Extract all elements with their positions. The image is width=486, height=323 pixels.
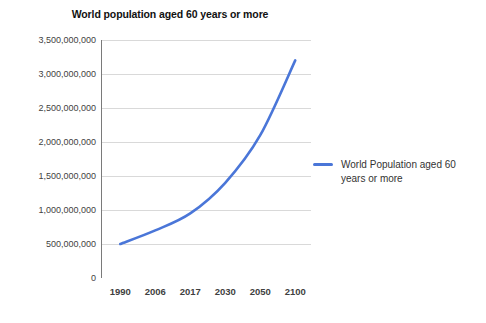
y-axis-tick-label: 1,000,000,000: [12, 205, 96, 215]
x-axis-tick-label: 2050: [250, 286, 271, 297]
legend-entry-label: World Population aged 60 years or more: [341, 158, 473, 186]
y-axis-tick-label: 500,000,000: [12, 239, 96, 249]
x-axis-tick-label: 2100: [285, 286, 306, 297]
y-axis-tick-label: 0: [12, 273, 96, 283]
legend-color-swatch-icon: [313, 163, 333, 166]
y-axis-tick-labels: 0500,000,0001,000,000,0001,500,000,0002,…: [12, 40, 96, 278]
plot-area: [101, 40, 311, 278]
y-axis-tick-label: 1,500,000,000: [12, 171, 96, 181]
data-series-line: [120, 60, 295, 244]
x-axis-tick-label: 2006: [145, 286, 166, 297]
x-axis-tick-label: 1990: [110, 286, 131, 297]
x-axis-tick-label: 2030: [215, 286, 236, 297]
line-chart-svg: [101, 40, 311, 278]
chart-title: World population aged 60 years or more: [0, 8, 340, 20]
y-axis-tick-label: 3,500,000,000: [12, 35, 96, 45]
x-axis-tick-labels: 199020062017203020502100: [101, 286, 311, 302]
chart-legend: World Population aged 60 years or more: [313, 158, 481, 186]
y-axis-tick-label: 3,000,000,000: [12, 69, 96, 79]
chart-container: World population aged 60 years or more 0…: [0, 0, 486, 323]
x-axis-tick-label: 2017: [180, 286, 201, 297]
y-axis-tick-label: 2,000,000,000: [12, 137, 96, 147]
y-axis-tick-label: 2,500,000,000: [12, 103, 96, 113]
